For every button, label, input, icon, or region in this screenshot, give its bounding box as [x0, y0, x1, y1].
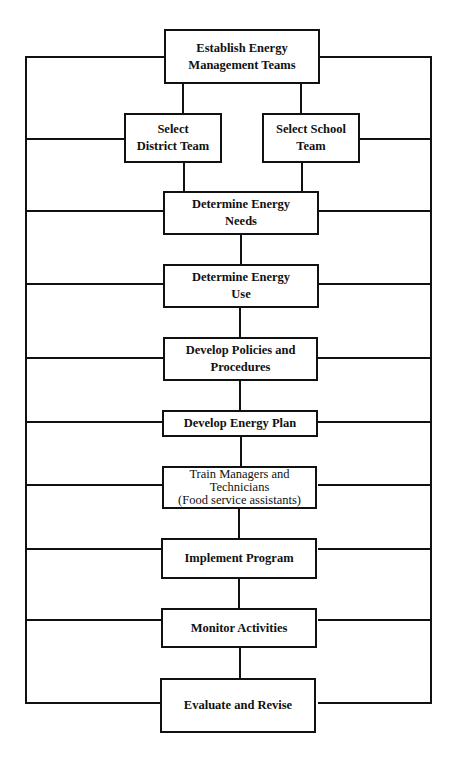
right-connector-use	[318, 283, 432, 285]
node-label-line: Develop Energy Plan	[184, 415, 297, 432]
node-implement-program: Implement Program	[161, 538, 317, 579]
node-label-line: Develop Policies and	[186, 342, 296, 359]
left-connector-needs	[25, 210, 165, 212]
right-connector-school	[357, 138, 432, 140]
node-label-line: Evaluate and Revise	[184, 697, 292, 714]
node-develop-policies: Develop Policies and Procedures	[163, 337, 318, 381]
right-connector-train	[318, 484, 432, 486]
node-select-district-team: Select District Team	[124, 113, 222, 163]
left-connector-plan	[25, 421, 165, 423]
edge-needs-use	[240, 233, 242, 265]
node-evaluate-revise: Evaluate and Revise	[160, 678, 316, 733]
node-label-line: Needs	[225, 213, 257, 230]
right-connector-policies	[318, 357, 432, 359]
left-connector-evaluate	[25, 702, 165, 704]
node-train-managers: Train Managers and Technicians (Food ser…	[162, 466, 317, 509]
edge-train-implement	[238, 507, 240, 539]
left-connector-district	[25, 138, 125, 140]
edge-establish-district	[182, 83, 184, 114]
node-label-line: Procedures	[211, 359, 271, 376]
node-label-line: Monitor Activities	[191, 620, 288, 637]
edge-use-policies	[239, 306, 241, 338]
left-connector-establish	[25, 56, 165, 58]
right-rail	[430, 56, 432, 704]
left-rail	[25, 56, 27, 704]
right-connector-monitor	[318, 619, 432, 621]
node-establish-teams: Establish Energy Management Teams	[164, 29, 320, 84]
node-develop-energy-plan: Develop Energy Plan	[162, 410, 318, 437]
node-label-line: Select School	[276, 121, 346, 138]
right-connector-plan	[318, 421, 432, 423]
node-label-line: Team	[296, 138, 325, 155]
node-determine-energy-use: Determine Energy Use	[163, 264, 319, 308]
edge-implement-monitor	[238, 577, 240, 609]
node-label-line: Establish Energy	[196, 40, 287, 57]
edge-establish-school	[300, 83, 302, 114]
edge-policies-plan	[239, 379, 241, 411]
node-select-school-team: Select School Team	[262, 113, 360, 163]
node-label-line: Determine Energy	[192, 196, 290, 213]
right-connector-implement	[318, 548, 432, 550]
left-connector-monitor	[25, 619, 165, 621]
edge-monitor-evaluate	[239, 646, 241, 679]
node-label-line: Use	[231, 286, 250, 303]
edge-school-needs	[301, 161, 303, 192]
left-connector-use	[25, 283, 165, 285]
node-label-line: Determine Energy	[192, 269, 290, 286]
node-determine-energy-needs: Determine Energy Needs	[163, 191, 319, 235]
node-monitor-activities: Monitor Activities	[161, 608, 317, 648]
node-label-line: District Team	[137, 138, 210, 155]
left-connector-implement	[25, 548, 165, 550]
node-label-line: (Food service assistants)	[178, 494, 301, 507]
right-connector-evaluate	[318, 702, 432, 704]
left-connector-policies	[25, 357, 165, 359]
edge-plan-train	[240, 435, 242, 467]
node-label-line: Management Teams	[188, 57, 295, 74]
right-connector-needs	[318, 210, 432, 212]
node-label-line: Select	[157, 121, 188, 138]
right-connector-establish	[318, 56, 432, 58]
node-label-line: Implement Program	[184, 550, 293, 567]
left-connector-train	[25, 484, 165, 486]
edge-district-needs	[183, 161, 185, 192]
